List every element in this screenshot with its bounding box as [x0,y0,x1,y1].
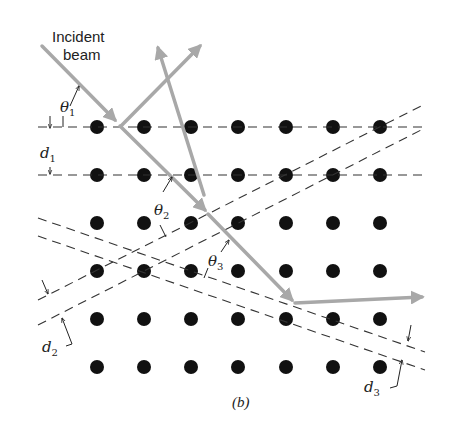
lattice-atom [231,264,245,278]
bragg-diagram: Incident beam θ1 θ2 θ3 d1 d2 d3 (b) [0,0,452,432]
lattice-atom [326,360,340,374]
lattice-atom [90,312,104,326]
lattice-atom [137,216,151,230]
theta3-label: θ3 [208,252,223,272]
lattice-atom [279,216,293,230]
lattice-atom [90,216,104,230]
lattice-atom [373,360,387,374]
lattice-atom [231,360,245,374]
d3-label: d3 [364,378,380,398]
lattice-atom [184,360,198,374]
theta2-label: θ2 [154,201,169,221]
reflected-beam-3 [295,297,422,303]
lattice-atom [137,312,151,326]
reflected-beam-2 [158,48,204,195]
figure-caption: (b) [232,394,250,411]
d2-label: d2 [42,338,58,358]
lattice-atom [279,312,293,326]
incident-label-beam: beam [63,46,101,63]
d1-label: d1 [40,144,56,164]
plane-set-3 [38,218,425,370]
plane-set-1 [38,127,425,175]
lattice-atom [373,312,387,326]
lattice-atom [279,360,293,374]
lattice-atom [373,264,387,278]
lattice-atom [137,360,151,374]
plane-set-2 [38,104,425,325]
refracted-path [120,126,205,210]
lattice-atom [373,216,387,230]
lattice-atom [90,264,104,278]
lattice-atom [231,312,245,326]
lattice-atom [326,216,340,230]
lattice-atom [90,360,104,374]
incident-label: Incident [52,28,105,45]
lattice-atom [184,264,198,278]
refracted-path-2 [208,214,292,300]
theta1-label: θ1 [60,98,75,118]
lattice-atom [231,216,245,230]
lattice-atom [184,312,198,326]
lattice-atom [279,264,293,278]
lattice-atom [326,264,340,278]
